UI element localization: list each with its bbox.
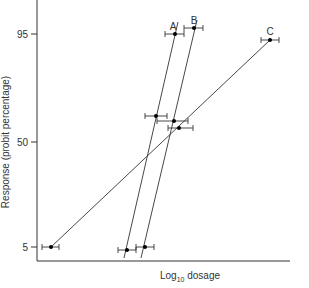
- x-axis-title-suffix: dosage: [184, 270, 220, 281]
- data-points: [49, 26, 272, 252]
- x-axis-title-subscript: 10: [177, 276, 185, 283]
- series-lines: [51, 20, 270, 258]
- series-c-line: [51, 40, 270, 247]
- y-axis-title: Response (probit percentage): [0, 76, 11, 208]
- series-a-point-high: [173, 32, 177, 36]
- series-a-point-mid: [154, 114, 158, 118]
- x-axis-title: Log10 dosage: [160, 270, 221, 283]
- series-c-point-high: [268, 38, 272, 42]
- y-tick-label-5: 5: [22, 242, 28, 253]
- series-b-point-low: [143, 245, 147, 249]
- error-bars: [42, 25, 279, 253]
- series-b-point-high: [192, 26, 196, 30]
- x-axis-title-base: Log: [160, 270, 177, 281]
- series-b-point-mid: [172, 119, 176, 123]
- series-a-point-low: [125, 248, 129, 252]
- series-c-point-mid: [177, 126, 181, 130]
- series-a-label: A: [170, 21, 177, 32]
- series-a-line: [124, 22, 178, 258]
- series-c-label: C: [266, 26, 273, 37]
- series-c-point-low: [49, 245, 53, 249]
- y-tick-label-50: 50: [17, 137, 29, 148]
- axes: [31, 0, 290, 261]
- y-tick-label-95: 95: [17, 29, 29, 40]
- probit-chart: 95 50 5 Response (probit percentage) Log…: [0, 0, 309, 288]
- series-b-label: B: [191, 15, 198, 26]
- series-b-line: [141, 20, 197, 258]
